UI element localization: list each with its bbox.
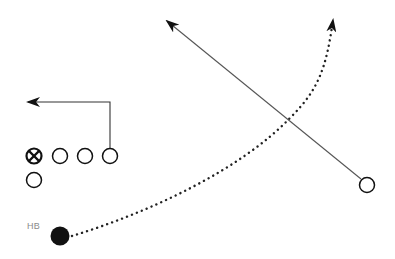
play-diagram: HB [0,0,395,259]
hb-label: HB [27,221,40,231]
end-circle-icon [103,149,118,164]
lineman-circle-icon [53,149,68,164]
lineman-circle-icon [78,149,93,164]
hb-wheel-route [72,20,333,236]
backfield-circle-icon [27,173,42,188]
play-diagram-canvas [0,0,395,259]
receiver-diagonal-route [167,21,361,179]
hb-filled-circle-icon [51,227,70,246]
end-route [28,102,110,148]
center-x-circle-icon [27,149,42,164]
receiver-circle-icon [360,178,375,193]
